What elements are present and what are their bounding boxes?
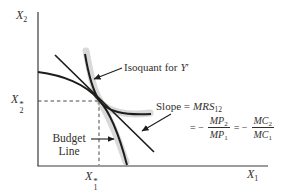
isoquant-label-text: Isoquant for bbox=[124, 61, 177, 73]
slope-label-text: Slope = bbox=[156, 100, 190, 112]
economics-figure: X2 X1 X*2 X*1 Isoquant forY′ Slope =MRS1… bbox=[0, 0, 292, 195]
mc-fraction: MC2 MC1 bbox=[252, 115, 275, 140]
mp-denominator: MP1 bbox=[208, 127, 230, 140]
x-optimum-variable: X bbox=[85, 169, 92, 183]
mrs-subscript: 12 bbox=[214, 105, 222, 114]
y-optimum-variable: X bbox=[11, 92, 18, 106]
slope-label: Slope =MRS12 bbox=[156, 100, 222, 112]
isoquant-prime: ′ bbox=[187, 61, 189, 73]
diagram-canvas bbox=[0, 0, 292, 195]
mc-numerator: MC2 bbox=[252, 115, 275, 127]
mp-fraction: MP2 MP1 bbox=[208, 115, 230, 140]
y-optimum-label: X*2 bbox=[11, 93, 24, 115]
equals-minus-2: = − bbox=[234, 122, 248, 133]
budget-label-line1: Budget bbox=[48, 132, 90, 145]
isoquant-label: Isoquant forY′ bbox=[124, 61, 189, 73]
budget-label: Budget Line bbox=[48, 132, 90, 158]
mc1-subscript: 1 bbox=[269, 134, 273, 142]
y-optimum-scripts: *2 bbox=[19, 102, 24, 115]
mp1-subscript: 1 bbox=[224, 134, 228, 142]
mrs-variable: MRS bbox=[193, 100, 214, 112]
mp2-variable: MP bbox=[210, 115, 224, 126]
slope-equation: = − MP2 MP1 = − MC2 MC1 bbox=[190, 115, 274, 140]
y-axis-subscript: 2 bbox=[23, 15, 27, 24]
mc-denominator: MC1 bbox=[252, 127, 275, 140]
y-axis-label: X2 bbox=[16, 9, 27, 21]
x-axis-label: X1 bbox=[247, 168, 258, 180]
mp1-variable: MP bbox=[210, 129, 224, 140]
x-axis-subscript: 1 bbox=[254, 174, 258, 183]
equals-minus-1: = − bbox=[190, 122, 204, 133]
x-optimum-label: X*1 bbox=[85, 170, 98, 192]
y-optimum-subscript: 2 bbox=[20, 107, 24, 115]
x-optimum-subscript: 1 bbox=[94, 184, 98, 192]
mc1-variable: MC bbox=[254, 129, 269, 140]
mp-numerator: MP2 bbox=[208, 115, 230, 127]
isoquant-arrow bbox=[94, 68, 122, 79]
budget-label-line2: Line bbox=[48, 145, 90, 158]
x-optimum-scripts: *1 bbox=[93, 179, 98, 192]
mc2-variable: MC bbox=[254, 115, 269, 126]
